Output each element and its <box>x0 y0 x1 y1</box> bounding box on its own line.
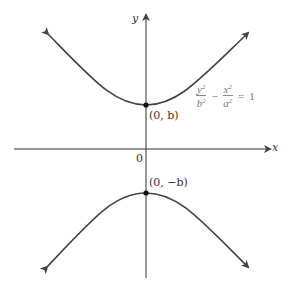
fraction-x-over-a: x2 a2 <box>223 82 233 109</box>
diagram-graphics <box>0 0 292 292</box>
vertex-label-lower: (0, −b) <box>149 176 188 189</box>
x-axis-label: x <box>272 141 278 154</box>
y-axis-label: y <box>132 12 138 25</box>
hyperbola-diagram: y x 0 (0, b) (0, −b) y2 b2 − x2 a2 = 1 <box>0 0 292 292</box>
fraction-y-over-b: y2 b2 <box>196 82 206 109</box>
equals-sign: = <box>238 90 244 102</box>
exponent: 2 <box>229 97 233 105</box>
origin-label: 0 <box>136 152 143 165</box>
exponent: 2 <box>229 83 233 91</box>
vertex-label-upper: (0, b) <box>149 109 179 122</box>
vertex-point-lower <box>143 190 148 195</box>
exponent: 2 <box>202 97 206 105</box>
equation-rhs: 1 <box>249 90 255 102</box>
lower-branch-curve <box>47 193 248 267</box>
exponent: 2 <box>202 83 206 91</box>
hyperbola-equation: y2 b2 − x2 a2 = 1 <box>196 82 255 109</box>
minus-sign: − <box>211 90 217 102</box>
vertex-point-upper <box>143 102 148 107</box>
